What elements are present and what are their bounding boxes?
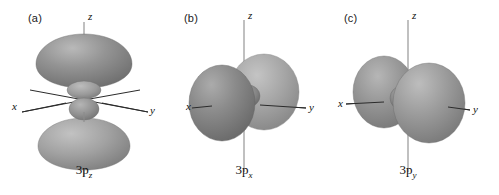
lobe-front-c bbox=[393, 63, 465, 143]
lobe-front-b bbox=[189, 65, 255, 141]
orbital-figure: (a) bbox=[0, 0, 499, 195]
axis-label-z-a: z bbox=[87, 10, 93, 22]
inner-lobe-upper-a bbox=[67, 81, 101, 99]
orbital-label-c-sub: y bbox=[413, 170, 417, 180]
orbital-label-b-text: 3p bbox=[236, 162, 249, 177]
orbital-label-a-text: 3p bbox=[76, 162, 89, 177]
axis-label-x-b: x bbox=[185, 100, 191, 112]
axis-label-z-c: z bbox=[411, 9, 417, 21]
orbital-label-c: 3py bbox=[400, 162, 417, 180]
panel-a-3pz: (a) bbox=[0, 0, 165, 195]
panel-b-3px: (b) z bbox=[160, 0, 325, 195]
orbital-label-b-sub: x bbox=[249, 170, 253, 180]
axis-label-y-a: y bbox=[149, 104, 155, 116]
axis-label-x-c: x bbox=[337, 97, 343, 109]
lobe-upper-a bbox=[36, 34, 132, 88]
axis-label-y-c: y bbox=[472, 103, 478, 115]
orbital-label-c-text: 3p bbox=[400, 162, 413, 177]
axis-label-y-b: y bbox=[308, 101, 314, 113]
orbital-label-a-sub: z bbox=[89, 170, 93, 180]
orbital-label-b: 3px bbox=[236, 162, 253, 180]
axis-label-z-b: z bbox=[247, 9, 253, 21]
panel-c-3py: (c) z bbox=[320, 0, 499, 195]
axis-label-x-a: x bbox=[11, 100, 17, 112]
orbital-label-a: 3pz bbox=[76, 162, 93, 180]
